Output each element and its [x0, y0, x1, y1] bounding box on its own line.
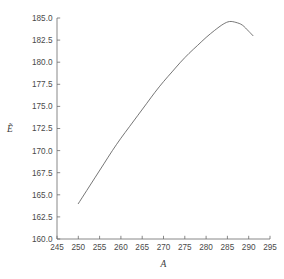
x-tick-label: 265	[135, 243, 149, 252]
y-tick-label: 180.0	[32, 58, 53, 67]
y-tick-label: 175.0	[32, 102, 53, 111]
x-tick-label: 290	[242, 243, 256, 252]
y-tick-label: 177.5	[32, 80, 53, 89]
x-axis-title: A	[160, 259, 167, 269]
y-tick-label: 165.0	[32, 191, 53, 200]
y-tick-label: 162.5	[32, 213, 53, 222]
x-tick-label: 275	[178, 243, 192, 252]
y-tick-label: 167.5	[32, 169, 53, 178]
x-tick-label: 250	[71, 243, 85, 252]
y-tick-label: 172.5	[32, 124, 53, 133]
x-tick-label: 280	[199, 243, 213, 252]
y-axis-title: Ẽ	[6, 123, 13, 134]
y-tick-label: 185.0	[32, 14, 53, 23]
y-tick-label: 170.0	[32, 147, 53, 156]
x-tick-label: 270	[157, 243, 171, 252]
x-tick-label: 285	[221, 243, 235, 252]
x-tick-label: 255	[93, 243, 107, 252]
line-chart: 160.0162.5165.0167.5170.0172.5175.0177.5…	[0, 0, 284, 279]
y-tick-label: 182.5	[32, 36, 53, 45]
x-tick-label: 260	[114, 243, 128, 252]
x-tick-label: 245	[50, 243, 64, 252]
chart-figure: 160.0162.5165.0167.5170.0172.5175.0177.5…	[0, 0, 284, 279]
data-series-curve	[78, 21, 253, 203]
x-tick-label: 295	[263, 243, 277, 252]
